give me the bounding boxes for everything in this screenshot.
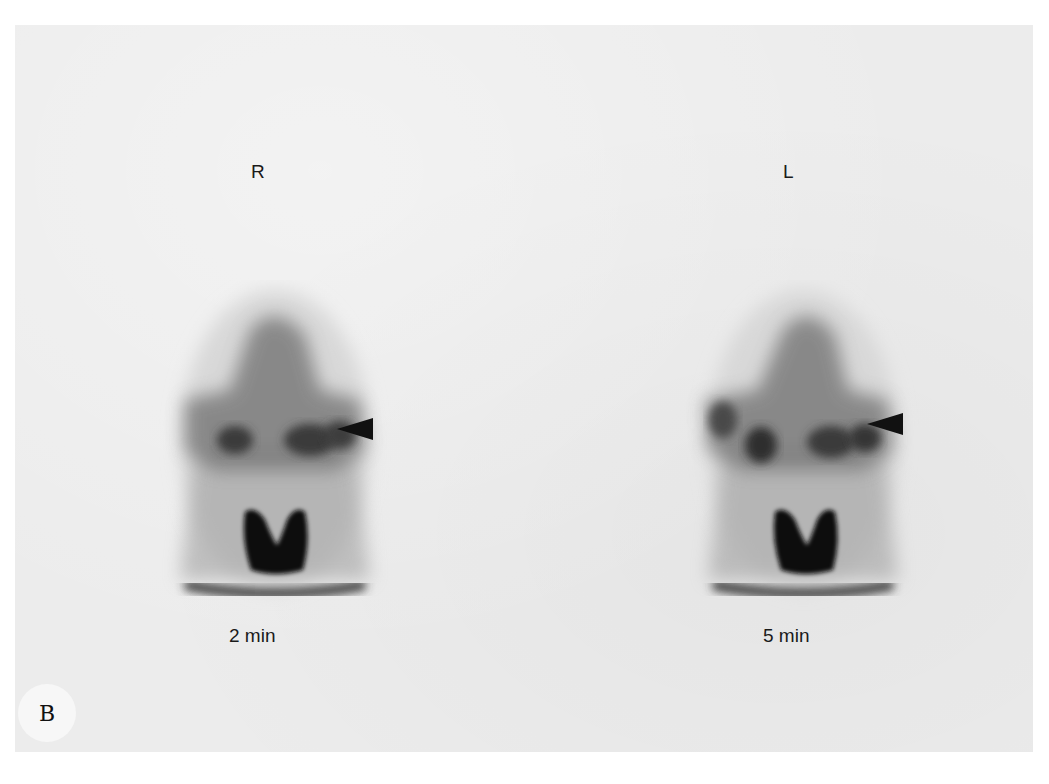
scan-image-5min bbox=[683, 280, 923, 640]
arrowhead-icon bbox=[867, 413, 903, 435]
time-label-2min: 2 min bbox=[229, 625, 275, 647]
side-label-right: R bbox=[251, 161, 265, 183]
side-label-left: L bbox=[783, 161, 794, 183]
scintigraphy-figure: R 2 min L 5 min B bbox=[15, 25, 1033, 752]
time-label-5min: 5 min bbox=[763, 625, 809, 647]
scan-image-2min bbox=[155, 280, 395, 640]
panel-letter-badge: B bbox=[18, 684, 76, 742]
arrowhead-icon bbox=[337, 418, 373, 440]
